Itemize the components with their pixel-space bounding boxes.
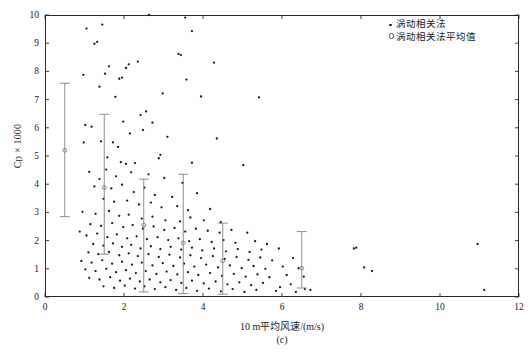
legend-label-mean: 涡动相关法平均值 [396, 31, 476, 44]
x-axis-title: 10 m平均风速/(m/s) [45, 318, 519, 333]
x-tick-label: 0 [30, 302, 60, 312]
x-tick-label: 6 [267, 302, 297, 312]
panel-caption: (c) [45, 334, 519, 345]
x-tick-label: 2 [109, 302, 139, 312]
x-tick-label: 10 [425, 302, 455, 312]
y-axis-title-main: C [12, 161, 23, 168]
x-tick-label: 12 [504, 302, 532, 312]
y-axis-title-sub: D [15, 156, 24, 162]
figure-root: 012345678910 024681012 CD × 1000 10 m平均风… [0, 0, 532, 356]
open-circle-icon [386, 31, 395, 44]
legend-label-scatter: 涡动相关法 [396, 18, 446, 31]
legend-item-mean: 涡动相关法平均值 [386, 31, 476, 44]
legend-item-scatter: 涡动相关法 [386, 18, 476, 31]
legend: 涡动相关法 涡动相关法平均值 [386, 18, 476, 43]
filled-dot-icon [386, 18, 395, 31]
x-tick-label: 4 [188, 302, 218, 312]
x-tick-label: 8 [346, 302, 376, 312]
x-axis-tick-labels: 024681012 [0, 0, 532, 356]
y-axis-title: CD × 1000 [12, 101, 24, 191]
y-axis-title-rest: × 1000 [12, 124, 23, 156]
